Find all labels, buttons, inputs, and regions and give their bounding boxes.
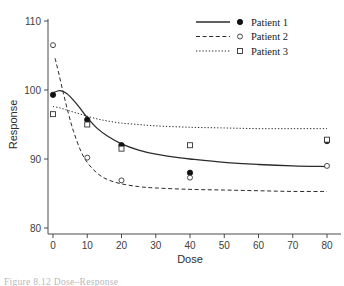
y-tick-label: 90 bbox=[30, 154, 42, 165]
legend-label-3: Patient 3 bbox=[251, 46, 288, 57]
legend-label-2: Patient 2 bbox=[251, 31, 288, 42]
data-point-p2 bbox=[51, 43, 56, 48]
legend-marker-2 bbox=[238, 34, 243, 39]
data-point-p3 bbox=[51, 112, 56, 117]
data-point-p3 bbox=[85, 122, 90, 127]
data-point-p2 bbox=[85, 155, 90, 160]
data-point-p3 bbox=[119, 146, 124, 151]
dose-response-chart: 809010011001020304050607080DoseResponseP… bbox=[0, 0, 344, 286]
legend-label-1: Patient 1 bbox=[251, 17, 288, 28]
x-tick-label: 40 bbox=[184, 240, 196, 251]
y-tick-label: 100 bbox=[24, 85, 41, 96]
data-point-p1 bbox=[50, 92, 55, 97]
y-axis-title: Response bbox=[7, 100, 19, 150]
x-tick-label: 30 bbox=[150, 240, 162, 251]
x-axis-title: Dose bbox=[177, 253, 203, 265]
data-point-p2 bbox=[325, 163, 330, 168]
x-tick-label: 20 bbox=[116, 240, 128, 251]
x-tick-label: 60 bbox=[253, 240, 265, 251]
x-tick-label: 0 bbox=[50, 240, 56, 251]
series-curve-1 bbox=[53, 91, 327, 167]
x-tick-label: 10 bbox=[82, 240, 94, 251]
x-tick-label: 50 bbox=[219, 240, 231, 251]
x-tick-label: 70 bbox=[287, 240, 299, 251]
data-point-p2 bbox=[188, 175, 193, 180]
figure-caption: Figure 8.12 Dose–Response bbox=[4, 277, 118, 286]
figure-container: 809010011001020304050607080DoseResponseP… bbox=[0, 0, 344, 286]
legend-marker-3 bbox=[238, 49, 243, 54]
data-point-p3 bbox=[325, 137, 330, 142]
x-tick-label: 80 bbox=[321, 240, 333, 251]
y-tick-label: 80 bbox=[30, 223, 42, 234]
data-point-p3 bbox=[188, 143, 193, 148]
y-tick-label: 110 bbox=[25, 16, 41, 27]
data-point-extra bbox=[119, 178, 124, 183]
legend-marker-1 bbox=[237, 19, 242, 24]
